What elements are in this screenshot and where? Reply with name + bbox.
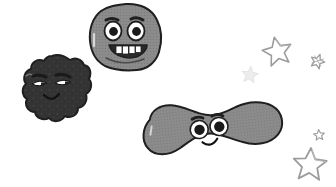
germ-scene-svg bbox=[0, 0, 336, 187]
round-germ-eyebrow-left bbox=[106, 19, 118, 21]
peanut-germ-eye-left bbox=[189, 120, 209, 140]
round-germ-eye-left bbox=[105, 22, 122, 41]
peanut-germ-eye-right bbox=[209, 117, 229, 137]
illustration-canvas: Cartoon germ characters illustration bbox=[0, 0, 336, 187]
dark-germ-eyebrow-left bbox=[33, 75, 46, 77]
round-germ-teeth bbox=[116, 46, 141, 54]
character-round-germ bbox=[90, 4, 161, 70]
round-germ-eye-right bbox=[128, 22, 145, 41]
round-germ-body bbox=[90, 4, 161, 70]
